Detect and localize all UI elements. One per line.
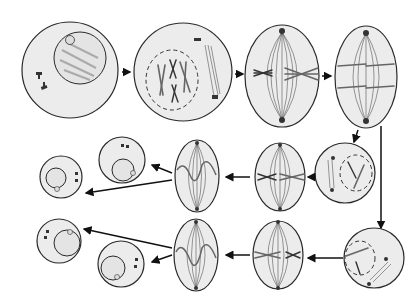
cell-prophase-2-lower <box>344 228 404 288</box>
daughter-cell <box>40 156 82 198</box>
cell-prophase-2-upper <box>315 143 375 203</box>
cell-prophase-1 <box>134 23 232 121</box>
cell-anaphase-1 <box>335 26 397 128</box>
arrow <box>152 255 172 262</box>
daughter-cell <box>99 137 145 183</box>
arrow <box>152 165 172 173</box>
daughter-cell <box>98 241 144 287</box>
label-anaphase-1: Anaphase I <box>0 0 5 1</box>
daughter-cell <box>37 219 81 263</box>
cell-metaphase-2-upper <box>255 143 305 211</box>
arrow <box>354 130 358 142</box>
meiosis-diagram: Interphase Prophase I Metaphase I Anapha… <box>0 0 418 307</box>
cell-interphase <box>22 22 118 118</box>
cell-metaphase-2-lower <box>253 220 303 290</box>
cell-metaphase-1 <box>245 25 319 127</box>
cell-anaphase-2-upper <box>175 140 219 212</box>
cell-anaphase-2-lower <box>174 219 218 291</box>
